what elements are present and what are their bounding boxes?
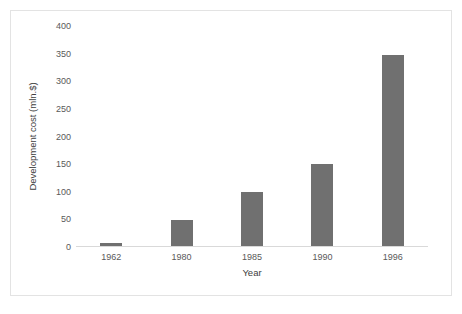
bar-slot — [217, 26, 287, 247]
y-tick-label: 350 — [35, 49, 71, 59]
plot-area — [76, 26, 428, 247]
x-tick-label-1980: 1980 — [146, 251, 216, 265]
x-axis-line — [76, 246, 428, 247]
bar-slot — [358, 26, 428, 247]
y-tick-label: 100 — [35, 187, 71, 197]
bar-1980[interactable] — [171, 220, 193, 247]
y-tick-label: 200 — [35, 132, 71, 142]
bar-1985[interactable] — [241, 192, 263, 247]
y-tick-label: 250 — [35, 104, 71, 114]
y-tick-label: 300 — [35, 76, 71, 86]
bar-slot — [146, 26, 216, 247]
bar-slot — [76, 26, 146, 247]
y-tick-label: 400 — [35, 21, 71, 31]
x-axis-tick-labels: 1962 1980 1985 1990 1996 — [76, 251, 428, 265]
bar-1996[interactable] — [382, 55, 404, 247]
bar-slot — [287, 26, 357, 247]
y-axis-tick-labels: 400 350 300 250 200 150 100 50 0 — [35, 26, 71, 247]
x-tick-label-1990: 1990 — [287, 251, 357, 265]
y-tick-label: 0 — [35, 242, 71, 252]
x-tick-label-1996: 1996 — [358, 251, 428, 265]
y-tick-label: 50 — [35, 214, 71, 224]
x-axis-title: Year — [76, 267, 428, 278]
bar-1990[interactable] — [311, 164, 333, 247]
y-tick-label: 150 — [35, 159, 71, 169]
bar-series — [76, 26, 428, 247]
chart-figure: Development cost (mln.$) 400 350 300 250… — [10, 10, 452, 296]
x-tick-label-1962: 1962 — [76, 251, 146, 265]
x-tick-label-1985: 1985 — [217, 251, 287, 265]
